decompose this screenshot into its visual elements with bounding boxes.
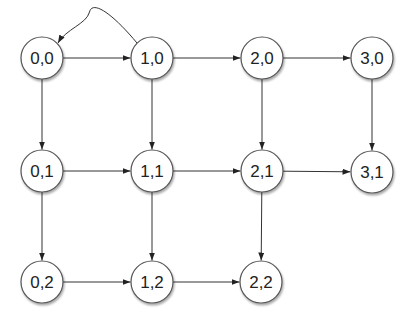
node-label: 2,1 [250,162,274,181]
node-label: 1,1 [140,162,164,181]
node-1-1: 1,1 [131,150,173,192]
node-label: 3,1 [360,163,384,182]
node-0-1: 0,1 [21,150,63,192]
node-2-2: 2,2 [240,261,282,303]
node-3-0: 3,0 [351,37,393,79]
node-0-0: 0,0 [21,37,63,79]
node-label: 0,1 [30,162,54,181]
node-label: 2,0 [250,49,274,68]
node-3-1: 3,1 [351,151,393,193]
edge-2-1-to-2-2 [261,192,262,261]
node-label: 3,0 [360,49,384,68]
node-0-2: 0,2 [21,261,63,303]
edge-2-1-to-3-1 [283,171,351,172]
node-1-0: 1,0 [131,37,173,79]
node-label: 0,2 [30,273,54,292]
node-label: 0,0 [30,49,54,68]
nodes-layer: 0,01,02,03,00,11,12,13,10,21,22,2 [21,37,393,303]
grid-graph-diagram: 0,01,02,03,00,11,12,13,10,21,22,2 [0,0,411,324]
node-2-1: 2,1 [241,150,283,192]
node-label: 1,2 [140,273,164,292]
edges-layer [42,8,372,282]
node-1-2: 1,2 [131,261,173,303]
node-2-0: 2,0 [241,37,283,79]
node-label: 1,0 [140,49,164,68]
node-label: 2,2 [249,273,273,292]
edge-1-0-to-0-0 [58,8,137,43]
